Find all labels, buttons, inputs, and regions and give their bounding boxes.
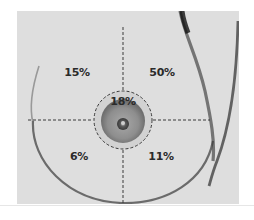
page-divider <box>0 205 254 206</box>
quadrant-label-upper-right: 50% <box>149 66 174 79</box>
quadrant-label-lower-left: 6% <box>70 150 88 163</box>
quadrant-label-lower-right: 11% <box>148 150 173 163</box>
breast-quadrant-diagram: 15% 50% 18% 6% 11% <box>17 11 239 204</box>
quadrant-label-upper-left: 15% <box>64 66 89 79</box>
quadrant-label-central: 18% <box>110 95 135 108</box>
nipple-highlight <box>121 121 125 125</box>
diagram-illustration <box>17 11 239 204</box>
